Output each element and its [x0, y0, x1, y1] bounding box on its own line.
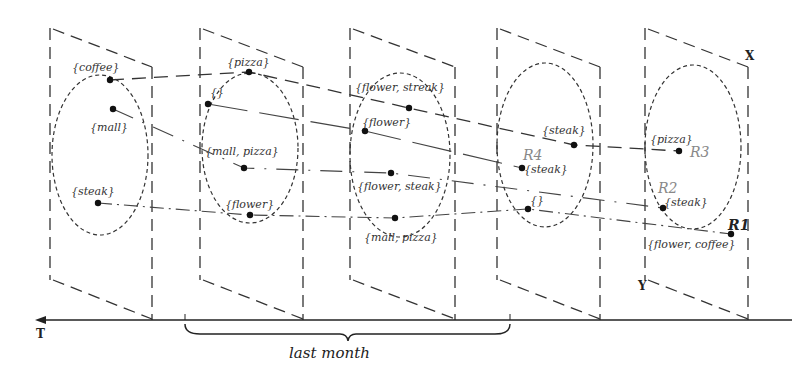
data-point: [392, 215, 398, 221]
time-frame-panel: [645, 28, 748, 320]
trajectory-line: [208, 104, 522, 168]
point-label: {steak}: [664, 197, 708, 208]
data-point: [107, 77, 113, 83]
region-ellipse: [350, 73, 450, 237]
point-label: {steak}: [542, 125, 586, 136]
region-label-r2: R2: [658, 181, 677, 195]
point-label: {flower}: [362, 117, 411, 128]
axis-label-x: X: [745, 50, 754, 62]
last-month-caption: last month: [289, 346, 370, 361]
point-label: {pizza}: [227, 57, 270, 68]
last-month-brace: [185, 324, 510, 341]
point-label: {coffee}: [72, 62, 120, 73]
region-label-r3: R3: [690, 145, 709, 159]
data-point: [205, 101, 211, 107]
data-point: [676, 148, 682, 154]
point-label: {mall, pizza}: [364, 232, 438, 243]
point-label: {flower, streak}: [355, 82, 445, 93]
data-point: [388, 170, 394, 176]
data-point: [406, 105, 412, 111]
region-ellipse: [52, 75, 148, 235]
point-label: {}: [530, 195, 544, 206]
trajectory-line: [98, 203, 731, 234]
region-ellipse: [497, 63, 593, 227]
axis-label-y: Y: [638, 280, 647, 292]
data-points: [95, 69, 734, 237]
point-label: {}: [210, 87, 224, 98]
data-point: [95, 200, 101, 206]
time-frame-panel: [350, 28, 455, 320]
data-point: [110, 106, 116, 112]
arrow-left-icon: [35, 316, 46, 324]
data-point: [246, 69, 252, 75]
point-label: {steak}: [71, 186, 115, 197]
point-label: {pizza}: [650, 134, 693, 145]
trajectories: [98, 72, 731, 234]
point-label: {mall, pizza}: [205, 146, 279, 157]
point-label: {flower, coffee}: [647, 239, 736, 250]
region-label-r1: R1: [728, 218, 749, 232]
data-point: [571, 142, 577, 148]
axis-label-t: T: [36, 328, 45, 340]
data-point: [241, 165, 247, 171]
point-label: {flower, steak}: [357, 181, 442, 192]
point-label: {flower}: [225, 199, 274, 210]
point-label: {mall}: [90, 122, 128, 133]
time-frame-panels: [50, 28, 748, 320]
point-label: {steak}: [524, 164, 568, 175]
data-point: [247, 212, 253, 218]
region-label-r4: R4: [523, 148, 542, 162]
